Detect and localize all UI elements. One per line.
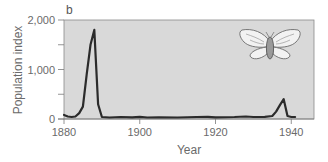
y-tick-label: 0 [49,113,55,125]
x-axis-title: Year [177,143,201,157]
y-tick-label: 1,000 [27,64,55,76]
y-tick-label: 2,000 [27,14,55,26]
x-tick-label: 1900 [128,126,152,138]
chart: b 01,0002,000 1880190019201940 Populatio… [0,0,328,162]
x-axis: 1880190019201940 [52,119,314,138]
x-tick-label: 1940 [279,126,303,138]
x-tick-label: 1920 [203,126,227,138]
y-axis-title: Population index [11,26,25,115]
panel-label: b [66,3,73,17]
y-axis: 01,0002,000 [27,14,64,125]
x-tick-label: 1880 [52,126,76,138]
